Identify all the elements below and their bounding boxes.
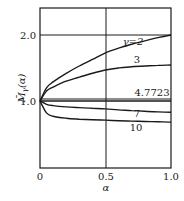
x-tick-0.5: 0.5 <box>98 171 114 182</box>
x-tick-0: 0 <box>37 171 43 182</box>
curve-label-gamma-7: 7 <box>134 108 140 119</box>
curve-label-gamma-10: 10 <box>130 122 143 133</box>
y-label-arg: (α) <box>16 73 27 88</box>
chart: 2.0 1.0 0 0.5 1.0 α M̄γ(α) γ=2 3 4.7723 … <box>0 0 184 201</box>
x-axis-label: α <box>103 182 110 193</box>
curve-label-gamma-4.7723: 4.7723 <box>135 87 170 98</box>
y-label-main: M̄ <box>16 92 27 104</box>
curve-label-gamma-3: 3 <box>134 54 140 65</box>
y-tick-2.0: 2.0 <box>20 30 36 41</box>
curve-label-gamma-2: γ=2 <box>123 36 144 47</box>
x-tick-1.0: 1.0 <box>163 171 179 182</box>
